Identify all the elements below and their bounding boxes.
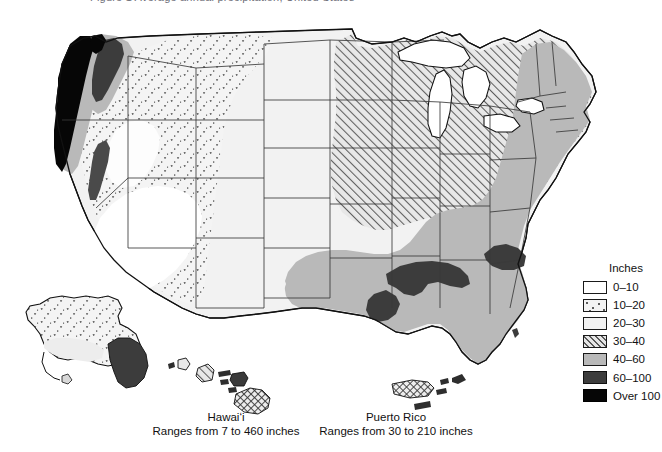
hawaii-molokai [218,370,231,377]
hawaii-kauai [178,358,190,370]
map-svg [0,8,662,452]
legend-label-40-60: 40–60 [613,353,645,365]
legend-swatch-0-10-icon [583,281,607,294]
hawaii-maui [230,372,248,386]
band-60-100-florida [512,328,519,338]
puerto-rico-inset-caption: Puerto Rico Ranges from 30 to 210 inches [296,411,496,438]
puerto-rico-inset-title: Puerto Rico [296,411,496,425]
pr-vi-stthomas [452,374,466,384]
legend-swatch-over-100-icon [583,389,607,402]
hawaii-oahu [196,364,214,382]
legend-label-10-20: 10–20 [613,299,645,311]
precipitation-map-figure: Figure 1 Average annual precipitation, U… [0,0,662,452]
alaska-kodiak [62,374,72,384]
pr-culebra [440,378,449,385]
legend-label-30-40: 30–40 [613,335,645,347]
legend-item-60-100[interactable]: 60–100 [583,368,662,386]
legend-label-over-100: Over 100 [613,390,660,402]
hawaii-kahoolawe [228,387,237,393]
legend-item-30-40[interactable]: 30–40 [583,332,662,350]
puerto-rico-inset-range: Ranges from 30 to 210 inches [296,425,496,439]
map-canvas [0,8,662,452]
legend-swatch-10-20-icon [583,299,607,312]
pr-vieques [436,388,447,395]
map-legend: Inches 0–10 10–20 20–30 30–40 40–60 60–1… [583,262,662,405]
legend-swatch-20-30-icon [583,317,607,330]
legend-item-over-100[interactable]: Over 100 [583,387,662,405]
legend-swatch-40-60-icon [583,353,607,366]
legend-item-10-20[interactable]: 10–20 [583,296,662,314]
legend-swatch-60-100-icon [583,371,607,384]
legend-item-0-10[interactable]: 0–10 [583,278,662,296]
legend-swatch-30-40-icon [583,335,607,348]
alaska-inset [26,296,148,388]
hawaii-inset [168,358,270,414]
puerto-rico-inset [392,374,466,410]
conus-map [54,29,596,364]
alaska-panhandle [108,338,148,388]
pr-main-island [392,380,434,398]
hawaii-lanai [220,379,229,385]
legend-title: Inches [609,262,662,274]
pr-vi-stcroix [414,401,431,410]
legend-item-40-60[interactable]: 40–60 [583,350,662,368]
legend-label-0-10: 0–10 [613,281,639,293]
legend-label-20-30: 20–30 [613,317,645,329]
hawaii-niihau [168,362,175,369]
legend-label-60-100: 60–100 [613,372,651,384]
legend-item-20-30[interactable]: 20–30 [583,314,662,332]
